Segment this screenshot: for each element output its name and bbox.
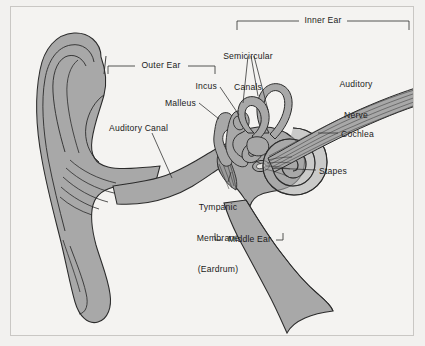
label-auditory-nerve-line2: Nerve [322, 110, 390, 120]
label-malleus: Malleus [144, 98, 196, 108]
label-cochlea: Cochlea [341, 129, 391, 139]
label-stapes: Stapes [319, 166, 365, 176]
pinna-outer-ear [37, 33, 160, 323]
label-tympanic-membrane-line3: (Eardrum) [183, 264, 253, 274]
bracket-label-outer-ear: Outer Ear [131, 60, 191, 70]
label-semicircular-canals-line1: Semicircular [208, 51, 288, 61]
label-auditory-nerve-line1: Auditory [322, 79, 390, 89]
label-incus: Incus [177, 81, 217, 91]
label-auditory-canal: Auditory Canal [109, 123, 189, 133]
diagram-page: Outer Ear Inner Ear Middle Ear Semicircu… [0, 0, 425, 346]
label-tympanic-membrane-line2: Membrane [183, 233, 253, 243]
label-semicircular-canals: Semicircular Canals [208, 30, 288, 113]
vestibule [247, 137, 269, 156]
label-tympanic-membrane-line1: Tympanic [183, 202, 253, 212]
bracket-label-inner-ear: Inner Ear [296, 15, 350, 25]
label-tympanic-membrane: Tympanic Membrane (Eardrum) [183, 181, 253, 295]
label-semicircular-canals-line2: Canals [208, 82, 288, 92]
